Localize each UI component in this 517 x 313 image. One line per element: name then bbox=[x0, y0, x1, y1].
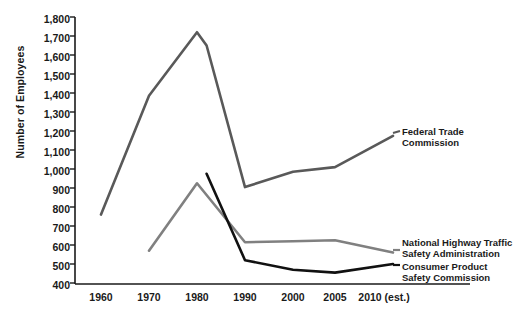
series-label-federal-trade-commission: Federal Trade Commission bbox=[402, 126, 464, 148]
series-line-federal-trade-commission bbox=[101, 32, 393, 214]
series-label-nhtsa-line1: National Highway Traffic bbox=[402, 237, 512, 248]
leader-line-ftc bbox=[393, 131, 400, 133]
series-label-ftc-line2: Commission bbox=[402, 137, 464, 148]
series-line-consumer-product-safety-commission bbox=[207, 174, 393, 273]
series-label-cpsc-line2: Safety Commission bbox=[402, 272, 490, 283]
series-line-national-highway-traffic-safety-administration bbox=[149, 183, 393, 252]
series-label-nhtsa-line2: Safety Administration bbox=[402, 248, 512, 259]
series-label-ftc-line1: Federal Trade bbox=[402, 126, 464, 137]
series-label-national-highway-traffic-safety-administration: National Highway Traffic Safety Administ… bbox=[402, 237, 512, 259]
employees-line-chart: Number of Employees 1,800 1,700 1,600 1,… bbox=[0, 0, 517, 313]
series-label-consumer-product-safety-commission: Consumer Product Safety Commission bbox=[402, 261, 490, 283]
series-label-cpsc-line1: Consumer Product bbox=[402, 261, 490, 272]
